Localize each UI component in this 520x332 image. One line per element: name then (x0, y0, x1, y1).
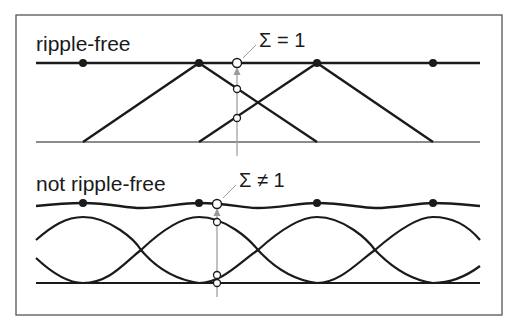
sum-label: Σ = 1 (259, 29, 305, 51)
triangle-kernel (83, 63, 317, 142)
sample-point (429, 199, 437, 207)
label-leader-line (223, 185, 236, 198)
probe-value-point (234, 86, 241, 93)
sample-point (195, 59, 203, 67)
sample-point (79, 59, 87, 67)
sample-point (195, 199, 203, 207)
panel-ripple-free: ripple-free Σ = 1 (36, 29, 480, 156)
sample-point (79, 199, 87, 207)
probe-sum-point (213, 200, 222, 209)
probe-value-point (214, 280, 221, 287)
probe-value-point (214, 272, 221, 279)
panel-title: ripple-free (36, 32, 131, 55)
label-leader-line (243, 45, 256, 58)
probe-sum-point (233, 59, 242, 68)
panel-not-ripple-free: not ripple-free Σ ≠ 1 (36, 169, 480, 297)
sample-point (313, 199, 321, 207)
figure-frame (16, 15, 502, 315)
sum-label: Σ ≠ 1 (239, 169, 285, 191)
panel-title: not ripple-free (36, 172, 166, 195)
ripple-diagram: ripple-free Σ = 1 not ripple-free (0, 0, 520, 332)
sample-point (429, 59, 437, 67)
probe-value-point (234, 115, 241, 122)
sum-line (36, 203, 480, 208)
sample-point (313, 59, 321, 67)
gaussian-kernel (36, 266, 480, 283)
probe-value-point (214, 219, 221, 226)
gaussian-kernel (36, 217, 480, 283)
